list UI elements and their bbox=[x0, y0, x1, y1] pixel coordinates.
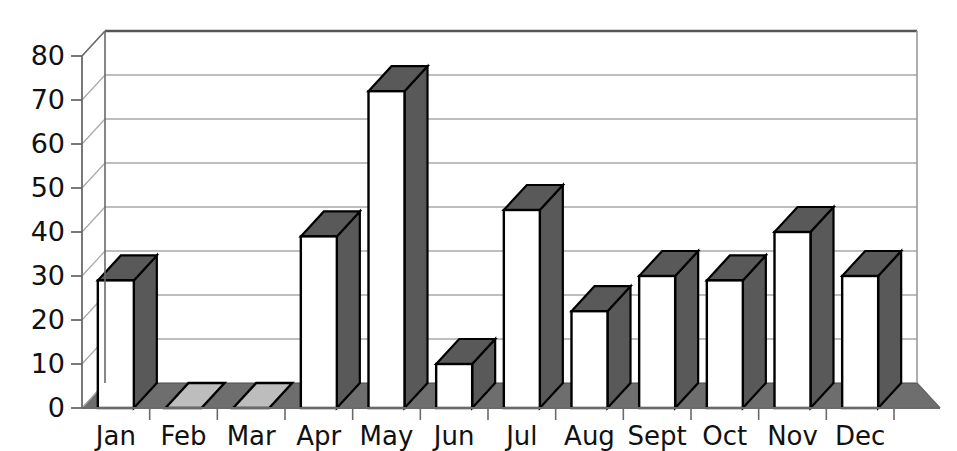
x-tick-label: Feb bbox=[160, 421, 206, 451]
bar-side-face bbox=[878, 251, 901, 408]
y-tick-label: 40 bbox=[31, 216, 65, 247]
bar-side-face bbox=[675, 251, 698, 408]
bar bbox=[775, 207, 834, 408]
bar bbox=[98, 255, 157, 408]
bar bbox=[504, 185, 563, 408]
y-tick-label: 60 bbox=[31, 128, 65, 159]
bar bbox=[842, 251, 901, 408]
bar bbox=[639, 251, 698, 408]
bar-front-face bbox=[301, 236, 337, 408]
x-tick-label: Sept bbox=[628, 421, 687, 451]
x-tick-label: Aug bbox=[564, 421, 615, 451]
side-wall-depth-line bbox=[82, 119, 105, 144]
y-tick-label: 20 bbox=[31, 304, 65, 335]
bar bbox=[301, 211, 360, 408]
x-tick-label: Mar bbox=[227, 421, 276, 451]
bar-front-face bbox=[369, 91, 405, 408]
bar-side-face bbox=[540, 185, 563, 408]
bar-side-face bbox=[811, 207, 834, 408]
bar-front-face bbox=[572, 311, 608, 408]
bar-chart-figure: 01020304050607080 JanFebMarAprMayJunJulA… bbox=[0, 0, 957, 451]
bar-front-face bbox=[775, 232, 811, 408]
x-tick-label: Jul bbox=[504, 421, 537, 451]
bar-front-face bbox=[436, 364, 472, 408]
y-tick-label: 10 bbox=[31, 348, 65, 379]
chart-canvas: 01020304050607080 JanFebMarAprMayJunJulA… bbox=[0, 0, 957, 451]
bar-side-face bbox=[743, 255, 766, 408]
y-tick-label: 0 bbox=[48, 392, 65, 423]
bar-front-face bbox=[707, 280, 743, 408]
y-tick-label: 30 bbox=[31, 260, 65, 291]
y-tick-label: 70 bbox=[31, 84, 65, 115]
bar-side-face bbox=[337, 211, 360, 408]
y-axis-top-connector bbox=[82, 31, 105, 56]
y-tick-label: 80 bbox=[31, 40, 65, 71]
bar bbox=[572, 286, 631, 408]
bar-front-face bbox=[98, 280, 134, 408]
side-wall-depth-line bbox=[82, 163, 105, 188]
x-tick-label: May bbox=[360, 421, 414, 451]
bar-side-face bbox=[134, 255, 157, 408]
x-tick-label: Apr bbox=[296, 421, 341, 451]
side-wall-depth-line bbox=[82, 207, 105, 232]
bar bbox=[707, 255, 766, 408]
x-tick-label: Jun bbox=[432, 421, 475, 451]
side-wall-depth-line bbox=[82, 251, 105, 276]
bar bbox=[369, 66, 428, 408]
x-tick-label: Dec bbox=[835, 421, 885, 451]
x-tick-group: JanFebMarAprMayJunJulAugSeptOctNovDec bbox=[94, 408, 894, 451]
bar-front-face bbox=[504, 210, 540, 408]
y-tick-label: 50 bbox=[31, 172, 65, 203]
x-tick-label: Nov bbox=[767, 421, 818, 451]
x-tick-label: Oct bbox=[702, 421, 747, 451]
side-wall-depth-line bbox=[82, 75, 105, 100]
bar-side-face bbox=[405, 66, 428, 408]
bar-front-face bbox=[639, 276, 675, 408]
x-tick-label: Jan bbox=[94, 421, 136, 451]
bar-front-face bbox=[842, 276, 878, 408]
y-tick-group: 01020304050607080 bbox=[31, 40, 82, 423]
